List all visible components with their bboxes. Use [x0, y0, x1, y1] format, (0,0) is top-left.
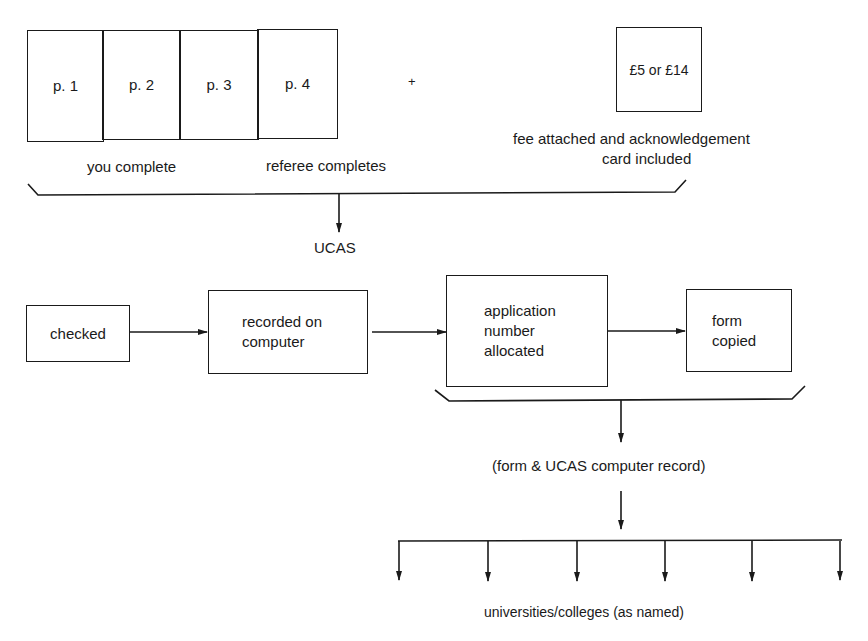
form-page-label: p. 4 [285, 74, 310, 94]
form-page-3: p. 3 [179, 30, 259, 140]
fee-caption-line2: card included [602, 149, 691, 168]
fee-caption-line1: fee attached and acknowledgement [513, 129, 750, 148]
step-label-line1: form [712, 311, 756, 331]
you-complete-label: you complete [87, 157, 176, 176]
step-label-line3: allocated [484, 341, 556, 361]
form-page-label: p. 1 [53, 76, 78, 96]
destinations-label: universities/colleges (as named) [484, 603, 684, 622]
form-page-1: p. 1 [27, 30, 104, 142]
step-label-line2: copied [712, 331, 756, 351]
step-label-line1: recorded on [242, 312, 322, 332]
step-label-line2: number [484, 321, 556, 341]
step-recorded-on-computer: recorded on computer [208, 290, 368, 374]
fee-label: £5 or £14 [629, 60, 688, 80]
step-label: checked [50, 324, 106, 344]
form-page-label: p. 2 [129, 75, 154, 95]
step-checked: checked [26, 305, 130, 362]
form-page-label: p. 3 [206, 75, 231, 95]
step-form-copied: form copied [686, 289, 792, 372]
fee-box: £5 or £14 [616, 27, 702, 112]
step-label-line2: computer [242, 332, 322, 352]
form-page-4: p. 4 [257, 29, 338, 139]
step-application-number-allocated: application number allocated [446, 275, 608, 387]
record-label: (form & UCAS computer record) [492, 456, 705, 475]
step-label-line1: application [484, 301, 556, 321]
referee-completes-label: referee completes [266, 156, 386, 175]
ucas-label: UCAS [314, 238, 356, 257]
plus-sign: + [408, 72, 416, 91]
form-page-2: p. 2 [102, 30, 181, 140]
